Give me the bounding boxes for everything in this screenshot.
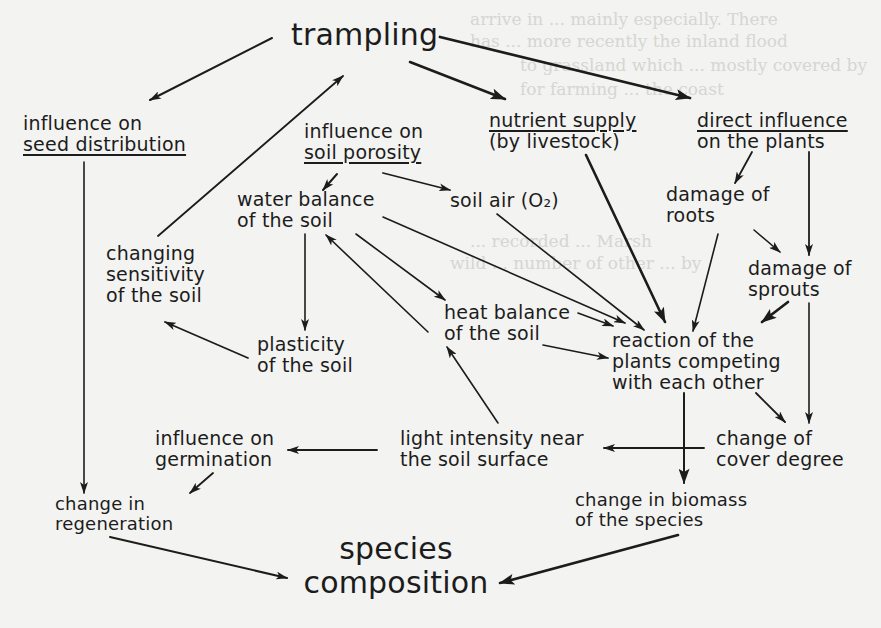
node-line: damage of — [748, 258, 852, 279]
diagram-canvas: arrive in ... mainly especially. There h… — [0, 0, 881, 628]
node-line: change in biomass — [575, 490, 747, 510]
node-line: influence on — [23, 113, 186, 134]
node-line: influence on — [155, 428, 274, 449]
node-line: sensitivity — [106, 264, 205, 285]
edge-light-heat — [447, 347, 498, 423]
node-line: reaction of the — [612, 330, 781, 351]
node-line: cover degree — [716, 449, 844, 470]
node-line: roots — [666, 205, 770, 226]
node-light-intensity: light intensity near the soil surface — [400, 428, 584, 470]
node-line: the soil surface — [400, 449, 584, 470]
node-seed-distribution: influence on seed distribution — [23, 113, 186, 155]
node-line: of the soil — [237, 210, 375, 231]
edge-germination-regeneration — [190, 473, 213, 493]
edge-plasticity-sensitivity — [165, 322, 248, 358]
node-soil-porosity: influence on soil porosity — [304, 121, 423, 163]
edge-reaction-cover — [756, 393, 785, 422]
node-line: of the soil — [106, 285, 205, 306]
node-line-underlined: soil porosity — [304, 142, 423, 163]
node-reaction: reaction of the plants competing with ea… — [612, 330, 781, 393]
node-line: light intensity near — [400, 428, 584, 449]
node-line: of the soil — [444, 323, 570, 344]
node-line: change in — [55, 494, 173, 514]
node-soil-air: soil air (O₂) — [450, 190, 559, 211]
node-line: damage of — [666, 184, 770, 205]
edge-direct-roots — [735, 152, 752, 183]
node-line: of the soil — [257, 355, 353, 376]
node-direct-influence: direct influence on the plants — [697, 110, 848, 152]
node-trampling: trampling — [291, 18, 438, 51]
node-line-underlined: nutrient supply — [489, 110, 636, 131]
node-line: plants competing — [612, 351, 781, 372]
node-biomass: change in biomass of the species — [575, 490, 747, 530]
node-plasticity: plasticity of the soil — [257, 334, 353, 376]
node-line: regeneration — [55, 514, 173, 534]
edge-sprouts-reaction — [762, 302, 788, 322]
node-line: plasticity — [257, 334, 353, 355]
edge-biomass-composition — [500, 535, 678, 583]
edge-roots-sprouts — [754, 230, 780, 252]
node-line: soil air (O₂) — [450, 190, 559, 211]
node-line: water balance — [237, 189, 375, 210]
node-damage-sprouts: damage of sprouts — [748, 258, 852, 300]
node-line: on the plants — [697, 131, 848, 152]
node-line: influence on — [304, 121, 423, 142]
node-nutrient-supply: nutrient supply (by livestock) — [489, 110, 636, 152]
node-line: changing — [106, 243, 205, 264]
edge-roots-reaction — [693, 234, 718, 331]
node-heat-balance: heat balance of the soil — [444, 302, 570, 344]
node-changing-sensitivity: changing sensitivity of the soil — [106, 243, 205, 306]
edge-regeneration-composition — [110, 537, 287, 578]
node-line-underlined: seed distribution — [23, 134, 186, 155]
edge-water-heat — [356, 234, 445, 300]
node-line: heat balance — [444, 302, 570, 323]
edge-heat-reaction-2 — [543, 345, 608, 358]
node-line: germination — [155, 449, 274, 470]
node-damage-roots: damage of roots — [666, 184, 770, 226]
node-line: species — [296, 532, 496, 566]
node-line: (by livestock) — [489, 131, 636, 152]
node-species-composition: species composition — [296, 532, 496, 600]
node-line: sprouts — [748, 279, 852, 300]
edge-trampling-nutrient-supply — [410, 62, 505, 99]
node-regeneration: change in regeneration — [55, 494, 173, 534]
node-line: of the species — [575, 510, 747, 530]
node-trampling-label: trampling — [291, 18, 438, 51]
node-line: with each other — [612, 372, 781, 393]
edge-nutrient-reaction — [586, 155, 665, 322]
node-line: composition — [296, 566, 496, 600]
node-water-balance: water balance of the soil — [237, 189, 375, 231]
node-cover-degree: change of cover degree — [716, 428, 844, 470]
edge-trampling-seed-distribution — [150, 38, 272, 100]
edge-porosity-soil-air — [383, 173, 450, 190]
node-line: change of — [716, 428, 844, 449]
node-line-underlined: direct influence — [697, 110, 848, 131]
node-germination: influence on germination — [155, 428, 274, 470]
